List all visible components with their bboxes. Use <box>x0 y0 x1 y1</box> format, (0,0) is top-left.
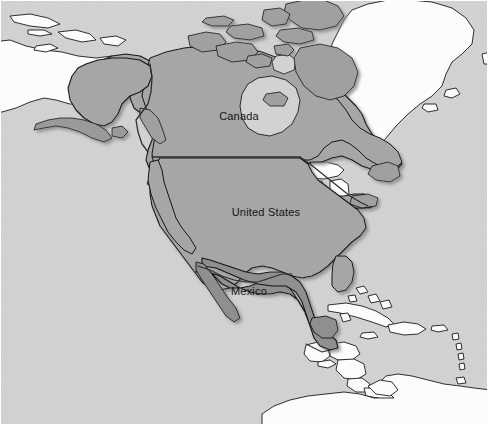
island-jamaica <box>360 332 378 339</box>
frame-right-edge <box>487 0 491 428</box>
island-lesser-antilles-a <box>452 333 459 340</box>
frame-bottom-edge <box>0 424 491 428</box>
island-lesser-antilles-d <box>459 363 465 370</box>
island-trinidad <box>456 377 466 384</box>
map-figure: Canada United States Mexico <box>0 0 491 428</box>
island-bahamas-d <box>348 295 357 302</box>
world-map-graphic <box>0 0 491 428</box>
island-lesser-antilles-c <box>458 353 464 360</box>
island-lesser-antilles-b <box>456 343 462 350</box>
foxe-basin <box>272 54 296 74</box>
